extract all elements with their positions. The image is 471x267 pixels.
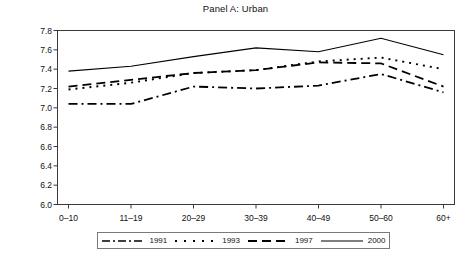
chart-legend: 1991 1993 1997 2000 — [97, 232, 390, 249]
plot-frame — [58, 31, 455, 205]
series-line-1991 — [69, 74, 444, 104]
legend-item-2000[interactable]: 2000 — [320, 236, 386, 245]
y-axis-tick-label: 6.2 — [40, 180, 52, 190]
y-axis-tick-label: 6.0 — [40, 200, 52, 210]
legend-swatch-solid — [320, 238, 364, 244]
y-axis-tick-labels: 6.06.26.46.66.87.07.27.47.67.8 — [40, 26, 52, 210]
series-line-1993 — [69, 58, 444, 90]
legend-swatch-dash-dot — [101, 238, 145, 244]
y-axis-tick-label: 7.4 — [40, 64, 52, 74]
x-axis-tick-label: 50–60 — [369, 213, 393, 223]
y-axis-tick-label: 7.0 — [40, 103, 52, 113]
x-axis-tick-label: 11–19 — [119, 213, 142, 223]
x-axis-tick-label: 30–39 — [244, 213, 268, 223]
y-axis-tick-label: 7.2 — [40, 84, 52, 94]
legend-label: 2000 — [368, 236, 386, 245]
legend-item-1997[interactable]: 1997 — [247, 236, 313, 245]
plot-area: 6.06.26.46.66.87.07.27.47.67.8 0–1011–19… — [0, 0, 471, 232]
x-axis-tick-label: 20–29 — [182, 213, 206, 223]
x-axis-tick-label: 60+ — [436, 213, 450, 223]
y-axis-tick-label: 6.6 — [40, 142, 52, 152]
y-axis-tick-label: 6.4 — [40, 161, 52, 171]
y-axis-tick-label: 6.8 — [40, 122, 52, 132]
legend-swatch-dashed — [247, 238, 291, 244]
x-axis-tick-labels: 0–1011–1920–2930–3940–4950–6060+ — [59, 213, 451, 223]
x-axis-tick-label: 0–10 — [59, 213, 78, 223]
series-lines — [69, 38, 444, 104]
legend-swatch-dotted — [174, 238, 218, 244]
legend-label: 1997 — [295, 236, 313, 245]
y-axis-tick-label: 7.6 — [40, 45, 52, 55]
x-axis-ticks — [69, 205, 444, 209]
chart-container: Panel A: Urban 6.06.26.46.66.87.07.27.47… — [0, 0, 471, 267]
legend-item-1993[interactable]: 1993 — [174, 236, 240, 245]
y-axis-tick-label: 7.8 — [40, 26, 52, 36]
x-axis-tick-label: 40–49 — [307, 213, 331, 223]
legend-label: 1991 — [149, 236, 167, 245]
y-axis-ticks — [54, 31, 58, 205]
legend-item-1991[interactable]: 1991 — [101, 236, 167, 245]
legend-label: 1993 — [222, 236, 240, 245]
series-line-2000 — [69, 38, 444, 71]
